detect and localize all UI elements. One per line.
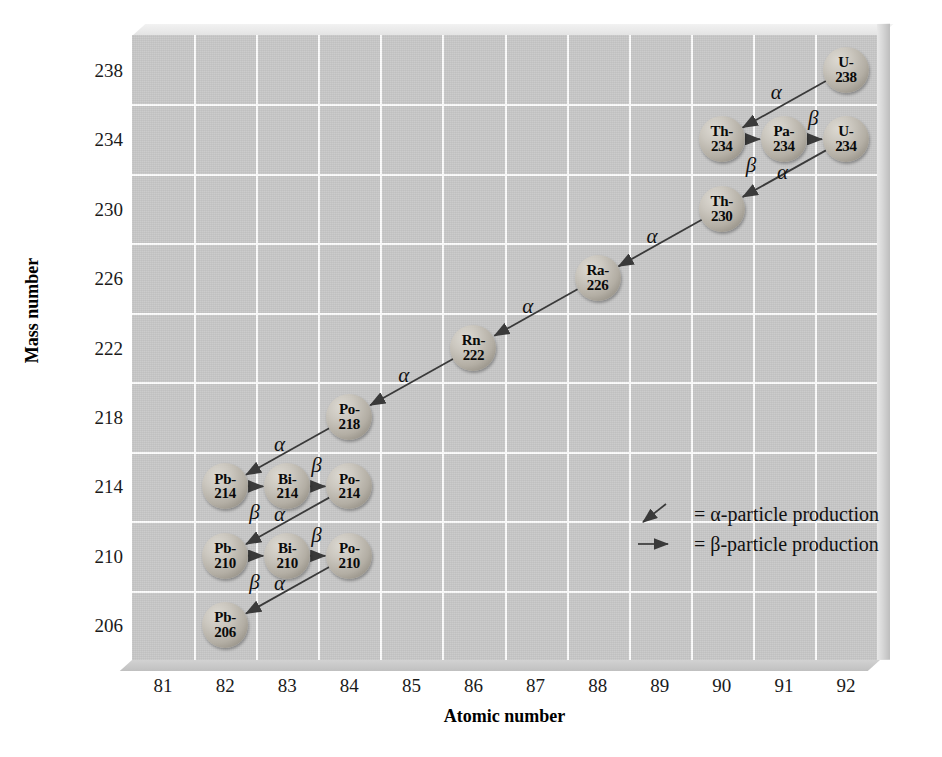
nuclide-mass: 214 [338,486,360,501]
nuclide-mass: 222 [463,348,485,363]
nuclide-mass: 234 [711,139,733,154]
nuclide-mass: 230 [711,209,733,224]
y-tick-label: 218 [63,408,123,427]
beta-arrow-icon [630,531,688,557]
nuclide-po-214[interactable]: Po-214 [326,463,372,509]
gridline-vertical [380,35,382,660]
decay-label: β [249,502,259,523]
y-tick-label: 206 [63,616,123,635]
nuclide-symbol: Po- [339,541,360,556]
nuclide-th-230[interactable]: Th-230 [699,186,745,232]
x-tick-label: 86 [443,676,503,695]
nuclide-mass: 206 [214,625,236,640]
x-tick-label: 85 [381,676,441,695]
panel-bottom-bevel [120,660,880,671]
nuclide-rn-222[interactable]: Rn-222 [450,325,496,371]
decay-label: β [311,525,321,546]
y-axis-label: Mass number [22,221,43,401]
x-tick-label: 82 [195,676,255,695]
nuclide-po-218[interactable]: Po-218 [326,394,372,440]
legend-row-beta: = β-particle production [630,529,879,559]
nuclide-pa-234[interactable]: Pa-234 [761,116,807,162]
nuclide-symbol: Pb- [214,610,236,625]
gridline-vertical [318,35,320,660]
nuclide-symbol: Pb- [214,541,236,556]
y-tick-label: 222 [63,339,123,358]
gridline-horizontal [132,591,877,593]
nuclide-symbol: Th- [711,194,733,209]
decay-label: α [274,434,285,455]
decay-label: α [522,296,533,317]
alpha-arrow-icon [630,501,688,527]
plot-area: U-238Th-234Pa-234U-234Th-230Ra-226Rn-222… [132,35,877,660]
x-tick-label: 87 [506,676,566,695]
decay-label: α [398,365,409,386]
x-tick-label: 84 [319,676,379,695]
gridline-vertical [256,35,258,660]
nuclide-pb-214[interactable]: Pb-214 [202,463,248,509]
y-tick-label: 210 [63,547,123,566]
nuclide-symbol: U- [838,55,853,70]
nuclide-mass: 238 [835,70,857,85]
y-tick-label: 226 [63,269,123,288]
y-tick-label: 238 [63,61,123,80]
legend-label-beta: = β-particle production [694,533,879,556]
gridline-vertical [505,35,507,660]
nuclide-mass: 218 [338,417,360,432]
nuclide-mass: 210 [338,556,360,571]
decay-label: α [777,162,788,183]
nuclide-symbol: Rn- [462,333,485,348]
x-tick-label: 83 [257,676,317,695]
nuclide-pb-210[interactable]: Pb-210 [202,533,248,579]
decay-label: α [274,573,285,594]
panel-right-bevel [877,24,890,660]
gridline-vertical [442,35,444,660]
gridline-horizontal [132,104,877,106]
x-tick-label: 89 [630,676,690,695]
nuclide-symbol: Bi- [278,472,296,487]
decay-label: β [249,572,259,593]
decay-label: β [746,155,756,176]
decay-label: β [808,108,818,129]
gridline-vertical [194,35,196,660]
decay-series-figure: U-238Th-234Pa-234U-234Th-230Ra-226Rn-222… [0,0,942,757]
decay-label: α [771,82,782,103]
gridline-horizontal [132,452,877,454]
gridline-vertical [567,35,569,660]
decay-label: β [311,455,321,476]
y-tick-label: 214 [63,477,123,496]
nuclide-th-234[interactable]: Th-234 [699,116,745,162]
nuclide-bi-210[interactable]: Bi-210 [264,533,310,579]
nuclide-symbol: U- [838,124,853,139]
nuclide-u-238[interactable]: U-238 [823,47,869,93]
x-tick-label: 90 [692,676,752,695]
nuclide-mass: 234 [835,139,857,154]
nuclide-mass: 226 [587,278,609,293]
gridline-horizontal [132,382,877,384]
nuclide-symbol: Po- [339,402,360,417]
gridline-vertical [691,35,693,660]
nuclide-ra-226[interactable]: Ra-226 [575,255,621,301]
nuclide-symbol: Po- [339,472,360,487]
nuclide-mass: 210 [276,556,298,571]
x-axis-ticks: 818283848586878889909192 [132,676,877,702]
y-axis-ticks: 238234230226222218214210206 [55,35,123,660]
x-tick-label: 92 [816,676,876,695]
nuclide-pb-206[interactable]: Pb-206 [202,602,248,648]
decay-label: α [274,504,285,525]
decay-label: α [647,226,658,247]
x-tick-label: 88 [568,676,628,695]
nuclide-mass: 214 [214,486,236,501]
gridline-horizontal [132,174,877,176]
nuclide-symbol: Ra- [586,263,608,278]
nuclide-symbol: Th- [711,124,733,139]
nuclide-symbol: Pb- [214,472,236,487]
y-tick-label: 230 [63,200,123,219]
nuclide-po-210[interactable]: Po-210 [326,533,372,579]
nuclide-bi-214[interactable]: Bi-214 [264,463,310,509]
gridline-vertical [629,35,631,660]
nuclide-u-234[interactable]: U-234 [823,116,869,162]
x-tick-label: 91 [754,676,814,695]
gridline-horizontal [132,243,877,245]
x-tick-label: 81 [133,676,193,695]
